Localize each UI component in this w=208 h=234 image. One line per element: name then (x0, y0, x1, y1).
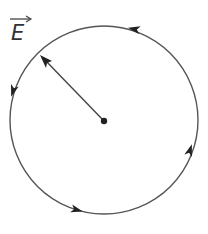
electric-field-diagram: E (0, 0, 208, 234)
flow-arrow-bottom-icon (70, 205, 84, 216)
vector-label-e: E (10, 16, 31, 45)
radius-line (44, 59, 104, 121)
field-label: E (11, 21, 25, 45)
center-point (101, 118, 107, 124)
